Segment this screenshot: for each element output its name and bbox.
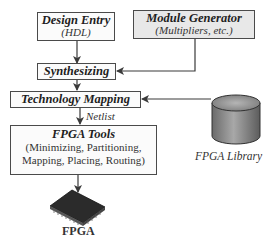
edge-modgen-to-synth [117,38,195,71]
technology-mapping-title: Technology Mapping [11,92,140,107]
synthesizing-box: Synthesizing [37,63,116,80]
design-entry-box: Design Entry (HDL) [37,12,115,41]
fpga-tools-line2: Mapping, Placing, Routing) [11,154,156,167]
design-entry-subtitle: (HDL) [38,27,114,39]
fpga-library-label: FPGA Library [195,150,262,162]
netlist-label: Netlist [86,110,115,122]
module-generator-box: Module Generator (Multipliers, etc.) [133,10,255,39]
module-generator-subtitle: (Multipliers, etc.) [134,25,254,37]
fpga-tools-title: FPGA Tools [11,128,156,141]
database-cylinder-icon [212,95,260,144]
chip-icon [50,190,105,226]
technology-mapping-box: Technology Mapping [10,91,141,108]
fpga-label: FPGA [62,224,95,239]
fpga-tools-line1: (Minimizing, Partitioning, [11,141,156,154]
fpga-tools-box: FPGA Tools (Minimizing, Partitioning, Ma… [10,125,157,175]
synthesizing-title: Synthesizing [38,64,115,79]
